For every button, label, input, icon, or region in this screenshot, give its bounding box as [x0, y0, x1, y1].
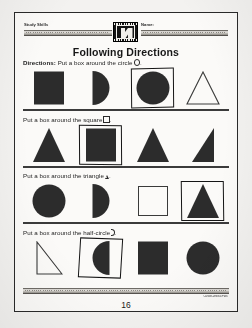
- shape-cell[interactable]: [129, 125, 176, 165]
- half-circle-icon: [111, 229, 115, 235]
- shape-cell[interactable]: [25, 238, 72, 278]
- shape-choices: [23, 238, 229, 278]
- stamp-teeth-bottom: [114, 39, 137, 41]
- name-write-in-line[interactable]: [141, 30, 228, 36]
- shape-cell[interactable]: [77, 238, 124, 278]
- hand-drawn-answer-box: [181, 181, 224, 221]
- shape-cell[interactable]: [129, 238, 176, 278]
- outlined-triangle-shape: [186, 71, 220, 105]
- filled-right-triangle-shape: [192, 128, 214, 162]
- half-circle-right-shape: [92, 71, 109, 105]
- subject-label: Study Skills: [24, 22, 48, 27]
- row-divider: [23, 109, 229, 111]
- outlined-square-shape: [138, 186, 168, 216]
- filled-square-shape: [34, 72, 64, 105]
- shape-cell[interactable]: [77, 68, 124, 108]
- outlined-right-triangle-shape: [35, 241, 63, 275]
- direction-text: Put a box around the square.: [23, 116, 112, 123]
- triangle-icon: [105, 175, 109, 179]
- shape-cell[interactable]: [25, 125, 72, 165]
- row-divider: [23, 222, 229, 224]
- row-divider: [23, 166, 229, 168]
- worksheet-scan: Study Skills Name: Following Directions …: [0, 0, 252, 328]
- shape-cell[interactable]: [179, 125, 226, 165]
- shape-cell[interactable]: [25, 181, 72, 221]
- shape-choices: [23, 125, 229, 165]
- hand-drawn-answer-box: [131, 67, 174, 108]
- publisher-stamp-icon: [113, 22, 138, 42]
- direction-body: Put a box around the square: [23, 116, 102, 123]
- name-label: Name:: [141, 22, 154, 27]
- shape-cell[interactable]: [129, 68, 176, 108]
- shape-cell[interactable]: [77, 181, 124, 221]
- filled-triangle-shape: [33, 128, 65, 162]
- shape-cell[interactable]: [179, 68, 226, 108]
- hand-drawn-answer-box: [79, 125, 122, 166]
- shape-cell[interactable]: [179, 238, 226, 278]
- shape-cell[interactable]: [179, 181, 226, 221]
- direction-lead: Directions:: [23, 59, 56, 66]
- shape-choices: [23, 68, 229, 108]
- direction-text: Put a box around the triangle.: [23, 172, 111, 179]
- subject-rule: [24, 30, 112, 36]
- direction-text: Put a box around the half-circle.: [23, 229, 117, 236]
- shape-cell[interactable]: [129, 181, 176, 221]
- page-title: Following Directions: [0, 46, 252, 58]
- shape-cell[interactable]: [77, 125, 124, 165]
- footer-rule: [23, 288, 229, 294]
- direction-body: Put a box around the circle: [58, 59, 133, 66]
- shape-choices: [23, 181, 229, 221]
- filled-circle-shape: [186, 242, 219, 275]
- filled-square-shape: [138, 242, 168, 275]
- half-circle-right-shape: [92, 184, 109, 218]
- direction-text: Directions: Put a box around the circle.: [23, 59, 142, 66]
- circle-icon: [134, 59, 140, 65]
- filled-circle-shape: [32, 185, 65, 218]
- shape-cell[interactable]: [25, 68, 72, 108]
- page-number: 16: [0, 300, 252, 310]
- copyright-notice: Carson-Dellosa Publ.: [156, 295, 228, 298]
- square-icon: [103, 116, 109, 122]
- filled-triangle-shape: [137, 128, 169, 162]
- direction-body: Put a box around the triangle: [23, 172, 104, 179]
- worksheet-header: Study Skills Name:: [24, 22, 228, 44]
- direction-body: Put a box around the half-circle: [23, 229, 110, 236]
- hand-drawn-answer-box: [78, 237, 123, 278]
